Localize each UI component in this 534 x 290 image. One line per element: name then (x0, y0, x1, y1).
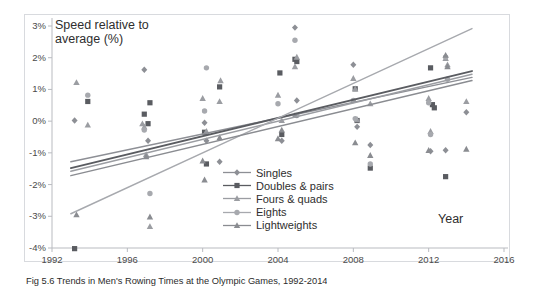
trend-line-lightweights (71, 81, 472, 176)
square-marker (279, 132, 284, 137)
circle-marker (142, 127, 147, 132)
y-tick-label: -1% (14, 147, 46, 158)
triangle-marker (73, 79, 79, 85)
diamond-marker (463, 109, 469, 115)
square-marker (443, 174, 448, 179)
triangle-marker (350, 75, 356, 81)
trend-line-fours-quads (71, 74, 472, 171)
triangle-marker (217, 77, 223, 83)
square-marker (432, 105, 437, 110)
square-marker (222, 179, 252, 192)
diamond-marker (294, 97, 300, 103)
circle-marker (234, 209, 239, 214)
y-tick-label: 2% (14, 52, 46, 63)
triangle-marker (463, 98, 469, 104)
circle-marker (275, 101, 280, 106)
legend-item-doubles-pairs[interactable]: Doubles & pairs (222, 179, 334, 192)
legend-item-eights[interactable]: Eights (222, 206, 334, 219)
square-marker (428, 65, 433, 70)
circle-marker (292, 38, 297, 43)
square-marker (72, 246, 77, 251)
y-tick-label: -3% (14, 210, 46, 221)
triangle-marker (222, 219, 252, 232)
figure-caption: Fig 5.6 Trends in Men's Rowing Times at … (26, 276, 327, 289)
triangle-marker (279, 127, 285, 133)
diamond-marker (292, 24, 298, 30)
legend-item-label: Lightweights (256, 219, 317, 231)
y-tick-label: -2% (14, 179, 46, 190)
y-tick-label: 1% (14, 83, 46, 94)
triangle-marker (222, 192, 252, 205)
triangle-marker (463, 146, 469, 152)
legend-item-label: Doubles & pairs (256, 180, 334, 192)
figure-container: Speed relative to average (%) Year 3%2%1… (0, 0, 534, 290)
diamond-marker (443, 147, 449, 153)
square-marker (234, 183, 239, 188)
triangle-marker (292, 63, 298, 69)
diamond-marker (350, 61, 356, 67)
x-tick-label: 2004 (258, 254, 298, 265)
diamond-marker (141, 67, 147, 73)
circle-marker (202, 108, 207, 113)
diamond-marker (222, 166, 252, 179)
square-marker (147, 100, 152, 105)
triangle-marker (147, 214, 153, 220)
legend-item-label: Eights (256, 206, 287, 218)
triangle-marker (442, 52, 448, 58)
circle-marker (85, 92, 90, 97)
diamond-marker (145, 138, 151, 144)
triangle-marker (199, 95, 205, 101)
x-tick-label: 2016 (484, 254, 524, 265)
circle-marker (222, 206, 252, 219)
circle-marker (204, 65, 209, 70)
y-axis-title: Speed relative to average (%) (55, 19, 235, 46)
triangle-marker (367, 152, 373, 158)
legend-item-fours-quads[interactable]: Fours & quads (222, 192, 334, 205)
circle-marker (426, 100, 431, 105)
square-marker (142, 112, 147, 117)
y-tick-label: 3% (14, 20, 46, 31)
circle-marker (147, 191, 152, 196)
triangle-marker (352, 139, 358, 145)
legend-item-label: Singles (256, 167, 292, 179)
diamond-marker (354, 124, 360, 130)
diamond-marker (234, 169, 240, 175)
triangle-marker (425, 95, 431, 101)
y-tick-label: 0% (14, 115, 46, 126)
diamond-marker (367, 142, 373, 148)
chart-legend: SinglesDoubles & pairsFours & quadsEight… (222, 166, 334, 232)
circle-marker (353, 116, 358, 121)
triangle-marker (199, 157, 205, 163)
triangle-marker (216, 98, 222, 104)
x-tick-label: 1996 (107, 254, 147, 265)
diamond-marker (217, 159, 223, 165)
x-tick-label: 1992 (32, 254, 72, 265)
square-marker (145, 121, 150, 126)
y-tick-label: -4% (14, 242, 46, 253)
x-tick-label: 2008 (333, 254, 373, 265)
square-marker (217, 84, 222, 89)
x-axis-title: Year (438, 213, 463, 227)
square-marker (85, 99, 90, 104)
triangle-marker (85, 122, 91, 128)
triangle-marker (147, 223, 153, 229)
trend-line-doubles-pairs (71, 71, 472, 168)
square-marker (294, 59, 299, 64)
legend-item-singles[interactable]: Singles (222, 166, 334, 179)
triangle-marker (275, 92, 281, 98)
diamond-marker (202, 120, 208, 126)
legend-item-lightweights[interactable]: Lightweights (222, 219, 334, 232)
circle-marker (428, 132, 433, 137)
x-tick-label: 2012 (409, 254, 449, 265)
diamond-marker (72, 117, 78, 123)
circle-marker (368, 161, 373, 166)
triangle-marker (201, 177, 207, 183)
square-marker (277, 70, 282, 75)
x-tick-label: 2000 (183, 254, 223, 265)
legend-item-label: Fours & quads (256, 193, 328, 205)
